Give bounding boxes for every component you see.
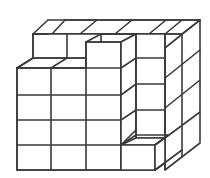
cube-stack-figure: Stack of unit cubes (0, 0, 210, 178)
cube-stack-drawing (0, 0, 210, 178)
right-side-faces (165, 20, 200, 170)
middle-column-side (121, 34, 136, 145)
top-back-faces (48, 20, 200, 34)
front-left-top (17, 58, 86, 68)
